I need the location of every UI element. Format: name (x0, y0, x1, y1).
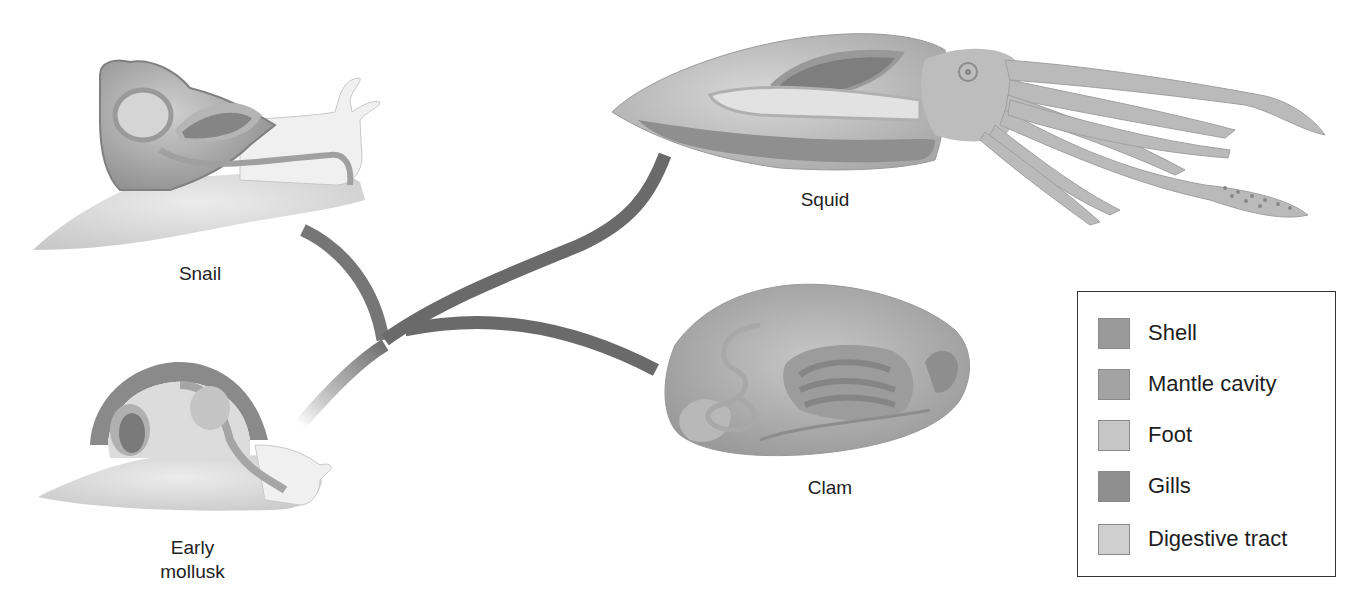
branch-trunk (300, 345, 385, 425)
snail-organ-loop (115, 90, 171, 140)
legend-label-shell: Shell (1148, 320, 1197, 346)
squid-tentacles (980, 60, 1325, 225)
legend-item-mantle-cavity: Mantle cavity (1098, 367, 1276, 401)
legend-label-digestive-tract: Digestive tract (1148, 526, 1287, 552)
branch-to-clam (405, 323, 656, 370)
foot-swatch (1098, 420, 1130, 451)
branch-to-snail (303, 230, 383, 340)
snail-label: Snail (170, 262, 230, 286)
early-mollusk-gill (119, 413, 145, 453)
snail-illustration (33, 61, 380, 250)
legend-item-gills: Gills (1098, 469, 1191, 503)
mantle-cavity-swatch (1098, 369, 1130, 400)
early-mollusk-label-line2: mollusk (150, 560, 235, 584)
legend-label-gills: Gills (1148, 473, 1191, 499)
early-mollusk-label-line1: Early (150, 536, 235, 560)
legend: Shell Mantle cavity Foot Gills Digestive… (1077, 291, 1336, 577)
shell-swatch (1098, 318, 1130, 349)
mollusk-evolution-diagram: Snail Squid Clam Early mollusk Shell Man… (0, 0, 1370, 611)
clam-illustration (665, 284, 970, 455)
legend-label-foot: Foot (1148, 422, 1192, 448)
early-mollusk-label: Early mollusk (150, 536, 235, 584)
legend-label-mantle-cavity: Mantle cavity (1148, 371, 1276, 397)
digestive-tract-swatch (1098, 524, 1130, 555)
squid-eye-pupil (965, 69, 971, 75)
gills-swatch (1098, 471, 1130, 502)
legend-item-shell: Shell (1098, 316, 1197, 350)
clam-label: Clam (795, 476, 865, 500)
squid-label: Squid (790, 188, 860, 212)
legend-item-digestive-tract: Digestive tract (1098, 522, 1287, 556)
early-mollusk-stomach (190, 386, 230, 430)
squid-illustration (612, 34, 1325, 225)
early-mollusk-illustration (38, 362, 331, 511)
legend-item-foot: Foot (1098, 418, 1192, 452)
branch-to-squid (385, 155, 665, 340)
